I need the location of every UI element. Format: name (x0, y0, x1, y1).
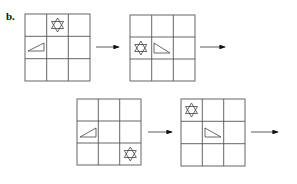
triangle-icon (28, 43, 44, 51)
triangle-icon (154, 43, 170, 53)
star-icon (135, 41, 147, 55)
grid-sequence-diagram (0, 0, 297, 184)
star-icon (52, 18, 64, 32)
triangle-icon (80, 128, 96, 137)
star-icon (124, 147, 136, 161)
star-icon (186, 103, 198, 117)
grid-3 (77, 99, 141, 165)
triangle-icon (205, 128, 221, 137)
